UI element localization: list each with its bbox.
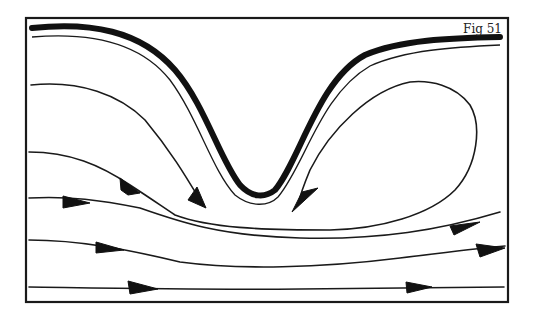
streamline-1	[31, 84, 200, 200]
wall-streamline	[32, 36, 500, 204]
streamline-5	[29, 287, 504, 289]
arrow-icon	[188, 187, 206, 208]
figure-frame	[26, 18, 508, 302]
streamline-2	[29, 82, 477, 230]
arrow-icon	[292, 188, 318, 212]
arrow-icon	[406, 282, 432, 293]
arrow-icon	[96, 242, 124, 253]
figure-label: Fig 51	[463, 22, 502, 36]
boundary-wall	[32, 26, 500, 195]
arrow-icon	[128, 281, 158, 294]
arrow-icon	[120, 178, 140, 195]
flow-diagram	[0, 0, 534, 321]
